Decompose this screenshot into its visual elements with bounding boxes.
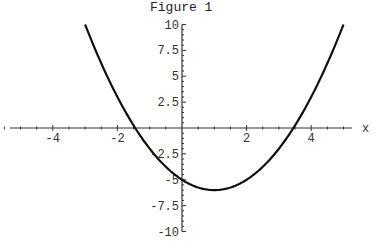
x-tick-label: 4 (308, 132, 315, 146)
y-tick-label: 10 (165, 19, 179, 33)
x-axis-label: x (362, 122, 369, 136)
x-tick-label: 2 (243, 132, 250, 146)
y-tick-label: -7.5 (150, 200, 179, 214)
plot-area: -4-224107.552.5-2.5-5-7.5-10x (0, 0, 376, 249)
y-tick-label: -10 (157, 226, 179, 240)
y-tick-label: 7.5 (157, 44, 179, 58)
y-tick-label: 2.5 (157, 96, 179, 110)
curve-line (85, 25, 343, 191)
x-tick-label: -4 (46, 132, 60, 146)
x-tick-label: -2 (110, 132, 124, 146)
y-tick-label: 5 (172, 70, 179, 84)
